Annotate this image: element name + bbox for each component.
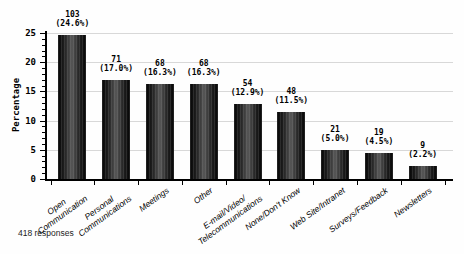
y-minor-tick	[42, 115, 45, 116]
y-tick-label: 0	[15, 174, 36, 184]
x-tick	[357, 181, 358, 185]
y-minor-tick	[42, 161, 45, 162]
y-minor-tick	[42, 132, 45, 133]
y-major-tick	[40, 150, 45, 151]
gridline	[47, 33, 453, 34]
y-major-tick	[40, 179, 45, 180]
bar	[277, 112, 305, 179]
y-tick-label: 10	[15, 116, 36, 126]
x-tick	[445, 181, 446, 185]
bar	[234, 104, 262, 179]
y-minor-tick	[42, 86, 45, 87]
y-minor-tick	[42, 97, 45, 98]
y-minor-tick	[42, 109, 45, 110]
x-tick	[269, 181, 270, 185]
value-label: 103 (24.6%)	[32, 10, 112, 28]
y-major-tick	[40, 33, 45, 34]
bar	[146, 84, 174, 179]
value-label: 48 (11.5%)	[251, 87, 331, 105]
y-minor-tick	[42, 56, 45, 57]
y-minor-tick	[42, 138, 45, 139]
x-tick	[226, 181, 227, 185]
y-axis-line	[45, 31, 47, 181]
y-minor-tick	[42, 103, 45, 104]
y-minor-tick	[42, 173, 45, 174]
value-label: 9 (2.2%)	[383, 141, 463, 159]
y-tick-label: 20	[15, 57, 36, 67]
y-minor-tick	[42, 39, 45, 40]
y-major-tick	[40, 91, 45, 92]
y-minor-tick	[42, 45, 45, 46]
y-minor-tick	[42, 74, 45, 75]
x-tick	[94, 181, 95, 185]
y-minor-tick	[42, 126, 45, 127]
category-label: Meetings	[138, 186, 171, 214]
y-tick-label: 5	[15, 145, 36, 155]
y-major-tick	[40, 121, 45, 122]
x-tick	[182, 181, 183, 185]
bar-chart-figure: Percentage 418 responses 0510152025103 (…	[0, 0, 464, 254]
x-tick	[313, 181, 314, 185]
x-tick	[51, 181, 52, 185]
y-minor-tick	[42, 156, 45, 157]
y-minor-tick	[42, 167, 45, 168]
x-tick	[401, 181, 402, 185]
y-minor-tick	[42, 68, 45, 69]
bar	[190, 84, 218, 179]
category-label: Newsletters	[393, 186, 435, 220]
y-minor-tick	[42, 51, 45, 52]
y-axis-title: Percentage	[10, 70, 22, 140]
x-axis-line	[45, 179, 453, 181]
category-label: Other	[193, 186, 216, 206]
x-tick	[138, 181, 139, 185]
y-minor-tick	[42, 80, 45, 81]
bar	[102, 80, 130, 179]
y-tick-label: 25	[15, 28, 36, 38]
y-tick-label: 15	[15, 86, 36, 96]
y-major-tick	[40, 62, 45, 63]
y-minor-tick	[42, 144, 45, 145]
bar	[321, 150, 349, 179]
value-label: 68 (16.3%)	[164, 59, 244, 77]
bar	[409, 166, 437, 179]
plot-area: Percentage 418 responses 0510152025103 (…	[0, 0, 464, 254]
